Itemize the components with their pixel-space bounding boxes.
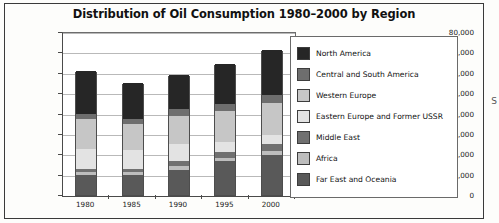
chart-page: Distribution of Oil Consumption 1980–200…: [0, 0, 499, 223]
legend-item: Western Europe: [297, 85, 452, 106]
bar-segment: [215, 142, 235, 152]
legend-item: Africa: [297, 148, 452, 169]
x-axis-tick-label: 1995: [204, 200, 244, 209]
legend-label: Western Europe: [316, 91, 376, 100]
stacked-bar: [168, 76, 190, 196]
legend-item: Middle East: [297, 127, 452, 148]
bar-segment: [123, 172, 143, 174]
legend-label: North America: [316, 49, 371, 58]
legend-item: Eastern Europe and Former USSR: [297, 106, 452, 127]
legend-swatch-icon: [297, 131, 310, 144]
legend-swatch-icon: [297, 89, 310, 102]
bar-segment: [123, 175, 143, 195]
x-axis-tick-mark: [108, 195, 109, 199]
x-axis-tick-label: 1980: [65, 200, 105, 209]
bar-segment: [262, 155, 282, 195]
x-axis-tick-mark: [201, 195, 202, 199]
bar-segment: [169, 109, 189, 115]
legend-label: Eastern Europe and Former USSR: [316, 112, 443, 121]
bar-segment: [262, 95, 282, 103]
bar-segment: [215, 64, 235, 105]
bar-segment: [215, 152, 235, 158]
bar-segment: [76, 71, 96, 114]
bar-segment: [215, 111, 235, 142]
legend-swatch-icon: [297, 68, 310, 81]
bar-segment: [169, 170, 189, 195]
plot-area: [62, 32, 296, 197]
stacked-bar: [122, 84, 144, 196]
legend-label: Africa: [316, 154, 338, 163]
bar-segment: [123, 83, 143, 119]
bar-segment: [169, 166, 189, 169]
bar-segment: [123, 124, 143, 150]
bar-segment: [76, 149, 96, 168]
legend-label: Far East and Oceania: [316, 175, 396, 184]
bar-segment: [76, 119, 96, 150]
legend-label: Central and South America: [316, 70, 419, 79]
legend-item: Central and South America: [297, 64, 452, 85]
stacked-bar: [75, 72, 97, 196]
bar-segment: [123, 150, 143, 168]
page-edge-letter: S: [491, 96, 497, 106]
bar-segment: [262, 103, 282, 135]
bar-segment: [76, 114, 96, 119]
legend-swatch-icon: [297, 173, 310, 186]
bar-segment: [262, 50, 282, 95]
chart-legend: North AmericaCentral and South AmericaWe…: [290, 36, 458, 198]
bar-segment: [169, 144, 189, 161]
legend-swatch-icon: [297, 110, 310, 123]
bar-segment: [123, 119, 143, 124]
legend-item: North America: [297, 43, 452, 64]
bar-segment: [76, 172, 96, 174]
bar-segment: [169, 75, 189, 110]
x-axis-tick-mark: [155, 195, 156, 199]
bar-segment: [169, 161, 189, 166]
x-axis-tick-label: 1990: [158, 200, 198, 209]
x-axis-tick-label: 1985: [112, 200, 152, 209]
bar-segment: [215, 104, 235, 111]
bar-segment: [76, 175, 96, 195]
x-axis-tick-mark: [248, 195, 249, 199]
bar-segment: [123, 169, 143, 173]
chart-title: Distribution of Oil Consumption 1980–200…: [4, 7, 484, 21]
x-axis-tick-label: 2000: [251, 200, 291, 209]
legend-item: Far East and Oceania: [297, 169, 452, 190]
bar-segment: [76, 169, 96, 173]
stacked-bar: [261, 51, 283, 196]
bar-segment: [169, 116, 189, 145]
stacked-bar: [214, 65, 236, 196]
legend-swatch-icon: [297, 47, 310, 60]
bar-series-group: [63, 33, 295, 196]
legend-swatch-icon: [297, 152, 310, 165]
bar-segment: [262, 144, 282, 151]
bar-segment: [215, 161, 235, 195]
bar-segment: [262, 151, 282, 155]
legend-label: Middle East: [316, 133, 360, 142]
bar-segment: [215, 158, 235, 161]
bar-segment: [262, 135, 282, 144]
